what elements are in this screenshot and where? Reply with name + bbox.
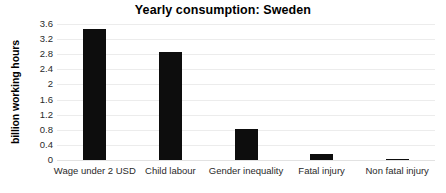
y-axis-tick-label: 1.6 xyxy=(23,95,53,105)
gridline xyxy=(57,69,435,70)
bar xyxy=(83,29,106,160)
y-axis-tick-label: 2 xyxy=(23,79,53,89)
y-axis-tick-label: 0 xyxy=(23,155,53,165)
y-axis-tick-label: 2.8 xyxy=(23,49,53,59)
y-axis-tick-label: 0.8 xyxy=(23,125,53,135)
gridline xyxy=(57,54,435,55)
plot-area xyxy=(57,24,435,160)
gridline xyxy=(57,115,435,116)
y-axis-tick-label: 3.6 xyxy=(23,19,53,29)
x-axis-tick-label: Non fatal injury xyxy=(342,165,446,177)
y-axis-tick-label: 1.2 xyxy=(23,110,53,120)
chart-title: Yearly consumption: Sweden xyxy=(0,3,446,17)
y-axis-tick-labels: 3.63.22.82.421.61.20.80.40 xyxy=(22,24,53,160)
gridline xyxy=(57,39,435,40)
y-axis-tick-label: 3.2 xyxy=(23,34,53,44)
gridline xyxy=(57,24,435,25)
bar xyxy=(159,52,182,160)
bar xyxy=(235,129,258,160)
gridline xyxy=(57,160,435,161)
bar xyxy=(310,154,333,160)
gridline xyxy=(57,100,435,101)
y-axis-title: billion working hours xyxy=(8,24,22,160)
bar-chart: Yearly consumption: Sweden billion worki… xyxy=(0,0,446,193)
gridline xyxy=(57,84,435,85)
bar xyxy=(386,159,409,161)
x-axis-tick-labels: Wage under 2 USDChild labourGender inequ… xyxy=(57,165,435,181)
y-axis-tick-label: 2.4 xyxy=(23,64,53,74)
y-axis-tick-label: 0.4 xyxy=(23,140,53,150)
y-axis-title-label: billion working hours xyxy=(9,40,21,144)
